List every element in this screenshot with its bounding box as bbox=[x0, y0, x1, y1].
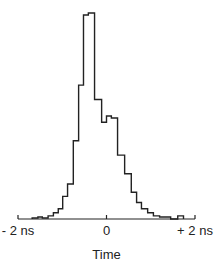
x-tick-label: 0 bbox=[103, 223, 110, 238]
histogram-bin bbox=[53, 213, 58, 219]
histogram-bin bbox=[125, 174, 132, 219]
histogram-bin bbox=[111, 118, 117, 219]
histogram-bin bbox=[148, 213, 154, 219]
histogram-bin bbox=[102, 122, 107, 219]
histogram-chart: - 2 ns0+ 2 ns Time bbox=[0, 0, 219, 266]
histogram-bin bbox=[131, 192, 136, 219]
x-tick-label: + 2 ns bbox=[177, 223, 213, 238]
histogram-bin bbox=[88, 13, 94, 219]
x-axis-title: Time bbox=[92, 247, 120, 262]
histogram-bin bbox=[137, 203, 142, 219]
histogram-bin bbox=[73, 141, 78, 219]
histogram-bin bbox=[107, 116, 112, 219]
histogram-outline bbox=[32, 13, 183, 219]
histogram-bin bbox=[63, 196, 68, 219]
histogram-bin bbox=[68, 184, 74, 219]
x-tick-labels: - 2 ns0+ 2 ns bbox=[2, 223, 214, 238]
histogram-bin bbox=[141, 209, 147, 219]
histogram-bin bbox=[83, 15, 88, 219]
x-tick-label: - 2 ns bbox=[2, 223, 35, 238]
histogram-bin bbox=[95, 100, 102, 219]
histogram-bin bbox=[118, 155, 125, 219]
histogram-bin bbox=[79, 85, 84, 219]
